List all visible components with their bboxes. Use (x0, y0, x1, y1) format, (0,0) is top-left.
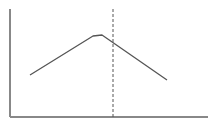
data-line (30, 35, 167, 80)
line-chart (0, 0, 212, 123)
chart-canvas (0, 0, 212, 123)
